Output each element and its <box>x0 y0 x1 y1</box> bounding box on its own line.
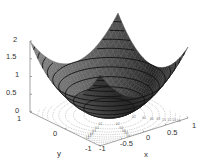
axis-line <box>65 128 67 129</box>
y-tick-minus1: -1 <box>85 144 92 153</box>
x-tick-1: 1 <box>192 121 196 130</box>
z-tick-1: 1 <box>15 70 19 79</box>
floor-contour-line <box>38 110 40 115</box>
x-tick-minus0.5: -0.5 <box>120 139 133 148</box>
floor-contour-label: 0.2 <box>116 122 120 126</box>
paraboloid-surface <box>30 13 188 118</box>
floor-contour-label: 1.0 <box>162 118 166 122</box>
floor-contour-label: 0.4 <box>142 116 146 120</box>
z-tick-1.5: 1.5 <box>6 52 16 61</box>
axis-line <box>143 131 144 133</box>
y-tick-1: 1 <box>17 114 21 123</box>
surface-patch <box>30 41 36 51</box>
z-tick-2: 2 <box>13 35 17 44</box>
x-axis-label: x <box>144 150 148 159</box>
floor-contour-line <box>47 106 52 120</box>
z-tick-0.5: 0.5 <box>6 88 16 97</box>
floor-contour-label: 0.2 <box>99 122 103 126</box>
x-tick-0: 0 <box>146 133 150 142</box>
floor-contour-line <box>42 107 45 117</box>
surface-plot: 0.20.20.20.40.40.40.60.60.60.80.80.81.01… <box>0 0 208 164</box>
floor-contour-label: 1.2 <box>86 136 90 140</box>
floor-contour-label: 0.2 <box>132 115 136 119</box>
surface-contour-line <box>183 52 184 55</box>
x-tick-minus1: -1 <box>99 144 106 153</box>
y-tick-0: 0 <box>53 129 57 138</box>
floor-contour-line <box>89 140 115 141</box>
floor-contour-label: 0.8 <box>156 117 160 121</box>
floor-contour-label: 1.2 <box>167 118 171 122</box>
axis-line <box>187 117 188 119</box>
x-tick-0.5: 0.5 <box>167 128 177 137</box>
floor-contour-line <box>94 142 108 143</box>
floor-contour-label: 0.6 <box>150 117 154 121</box>
floor-contour-line <box>166 110 171 124</box>
y-axis-label: y <box>57 149 61 158</box>
